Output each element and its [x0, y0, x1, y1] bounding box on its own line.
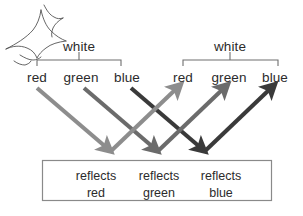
surface-cell-green-line1: reflects: [139, 168, 179, 185]
source-label-red: red: [27, 71, 47, 85]
surface-cell-red-line1: reflects: [76, 168, 116, 185]
left-white-bracket: [37, 52, 121, 66]
source-label-blue: blue: [114, 71, 140, 85]
reflected-label-green: green: [211, 71, 246, 85]
surface-cell-red: reflects red: [76, 168, 116, 202]
surface-cell-blue-line2: blue: [201, 185, 241, 202]
right-white-bracket: [183, 52, 278, 66]
left-white-label: white: [63, 40, 95, 54]
reflected-label-red: red: [173, 71, 193, 85]
surface-cell-green: reflects green: [139, 168, 179, 202]
right-white-label: white: [214, 40, 246, 54]
source-label-green: green: [63, 71, 98, 85]
surface-cell-red-line2: red: [76, 185, 116, 202]
light-burst-icon: [6, 5, 66, 65]
surface-cell-green-line2: green: [139, 185, 179, 202]
reflected-label-blue: blue: [262, 71, 288, 85]
surface-cell-blue: reflects blue: [201, 168, 241, 202]
diagram-canvas: white red green blue white red green blu…: [0, 0, 303, 216]
surface-cell-blue-line1: reflects: [201, 168, 241, 185]
